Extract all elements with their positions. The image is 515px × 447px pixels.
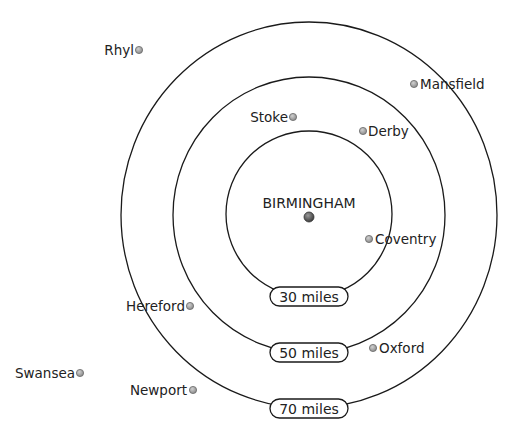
- distance-rings-diagram: 30 miles 50 miles 70 miles BIRMINGHAM Rh…: [0, 0, 515, 447]
- town-dot-icon: [186, 302, 193, 309]
- town-derby: Derby: [359, 123, 408, 139]
- town-dot-icon: [410, 80, 417, 87]
- town-dot-icon: [369, 344, 376, 351]
- town-mansfield: Mansfield: [410, 76, 484, 92]
- center-city-label: BIRMINGHAM: [262, 195, 355, 211]
- town-dot-icon: [365, 235, 372, 242]
- town-dot-icon: [359, 127, 366, 134]
- ring-label-70-miles: 70 miles: [270, 399, 348, 418]
- town-label: Swansea: [15, 365, 75, 381]
- town-label: Hereford: [126, 298, 185, 314]
- ring-label-30-miles: 30 miles: [270, 287, 348, 306]
- town-dot-icon: [189, 386, 196, 393]
- town-oxford: Oxford: [369, 340, 424, 356]
- town-dot-icon: [135, 46, 142, 53]
- town-label: Coventry: [375, 231, 436, 247]
- town-newport: Newport: [130, 382, 197, 398]
- town-label: Oxford: [379, 340, 425, 356]
- town-swansea: Swansea: [15, 365, 84, 381]
- ring-label-text: 30 miles: [279, 289, 339, 305]
- town-label: Rhyl: [104, 42, 134, 58]
- town-hereford: Hereford: [126, 298, 194, 314]
- center-city-birmingham: BIRMINGHAM: [262, 195, 355, 222]
- town-dot-icon: [76, 369, 83, 376]
- ring-label-50-miles: 50 miles: [270, 343, 348, 362]
- town-coventry: Coventry: [365, 231, 436, 247]
- town-label: Newport: [130, 382, 187, 398]
- ring-label-text: 70 miles: [279, 401, 339, 417]
- ring-label-text: 50 miles: [279, 345, 339, 361]
- center-city-dot-icon: [304, 212, 314, 222]
- town-dot-icon: [289, 113, 296, 120]
- town-label: Mansfield: [420, 76, 485, 92]
- town-label: Derby: [368, 123, 409, 139]
- town-label: Stoke: [250, 109, 288, 125]
- town-stoke: Stoke: [250, 109, 296, 125]
- town-rhyl: Rhyl: [104, 42, 142, 58]
